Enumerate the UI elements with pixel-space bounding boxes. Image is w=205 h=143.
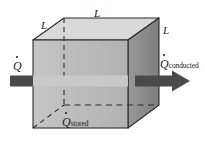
q-glyph: Q <box>13 60 22 72</box>
heat-conducted-subscript: conducted <box>169 61 199 70</box>
q-symbol-wrap: Q <box>160 58 169 70</box>
heat-arrow-tail-left <box>10 76 33 87</box>
heat-input-label: Q <box>13 60 22 72</box>
heat-conducted-label: Q conducted <box>160 58 199 70</box>
heat-flow-band <box>33 76 128 87</box>
q-symbol-wrap: Q <box>62 116 71 128</box>
q-glyph: Q <box>62 116 71 128</box>
q-symbol-wrap: Q <box>13 60 22 72</box>
heat-stored-label: Q stored <box>62 116 88 128</box>
dimension-label-L-right: L <box>163 25 169 36</box>
heat-stored-subscript: stored <box>71 119 89 128</box>
cube-diagram-canvas <box>0 0 205 143</box>
q-glyph: Q <box>160 58 169 70</box>
dimension-label-L-left: L <box>41 20 47 31</box>
heat-arrow-head <box>172 71 190 92</box>
dimension-label-L-top: L <box>94 8 100 19</box>
heat-transfer-cube-figure: L L L Q Q conducted Q stored <box>0 0 205 143</box>
heat-arrow-shaft-right <box>135 76 174 87</box>
